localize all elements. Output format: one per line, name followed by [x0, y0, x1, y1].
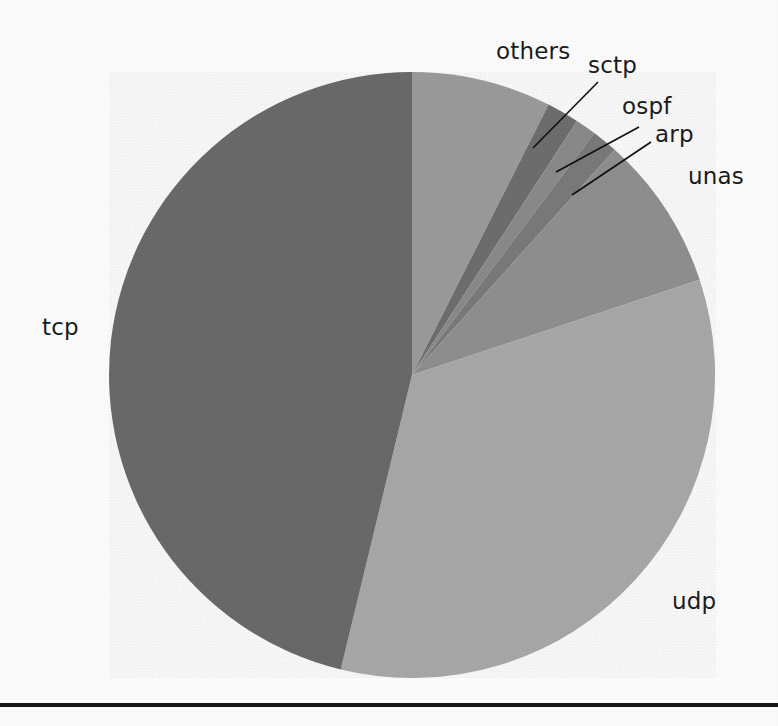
pie-label-unas: unas	[688, 165, 744, 188]
pie-label-arp: arp	[655, 123, 694, 146]
pie-label-sctp: sctp	[588, 54, 637, 77]
pie-label-udp: udp	[672, 590, 716, 613]
bottom-horizontal-rule	[0, 703, 778, 707]
pie-chart-figure: others sctp ospf arp unas udp tcp	[0, 0, 778, 726]
pie-label-tcp: tcp	[42, 316, 79, 339]
pie-wedges-group	[109, 72, 715, 678]
pie-label-ospf: ospf	[622, 95, 672, 118]
pie-label-others: others	[496, 40, 570, 63]
